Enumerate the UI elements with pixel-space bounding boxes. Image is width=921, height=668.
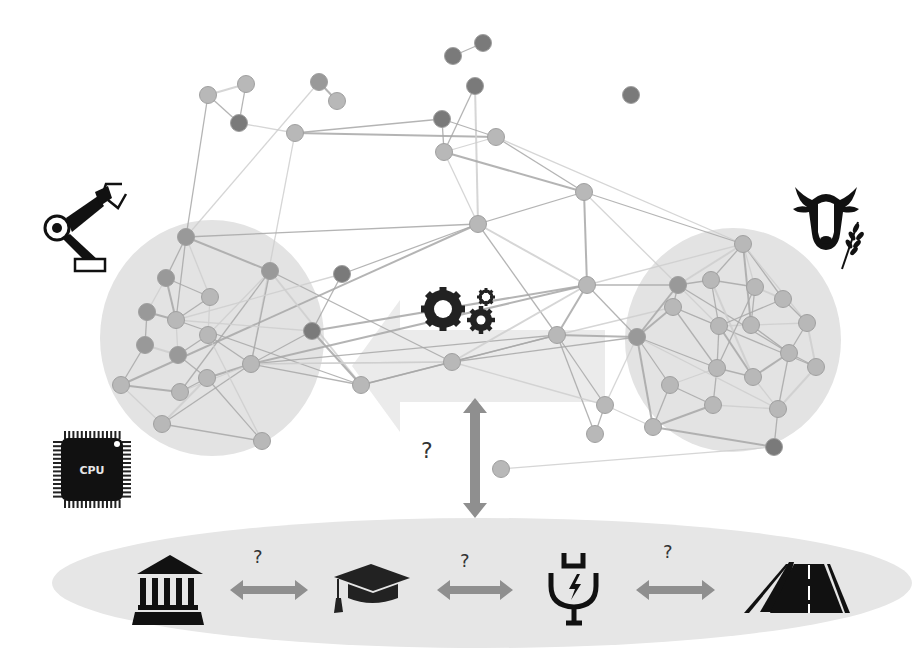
network-node bbox=[662, 377, 679, 394]
network-node bbox=[353, 377, 370, 394]
network-node bbox=[735, 236, 752, 253]
network-node bbox=[623, 87, 640, 104]
network-node bbox=[488, 129, 505, 146]
network-node bbox=[705, 397, 722, 414]
network-node bbox=[703, 272, 720, 289]
network-edge bbox=[444, 152, 478, 224]
network-node bbox=[766, 439, 783, 456]
network-node bbox=[808, 359, 825, 376]
network-node bbox=[243, 356, 260, 373]
network-node bbox=[645, 419, 662, 436]
network-node bbox=[254, 433, 271, 450]
network-node bbox=[770, 401, 787, 418]
network-node bbox=[304, 323, 321, 340]
network-node bbox=[199, 370, 216, 387]
network-edge bbox=[584, 192, 678, 285]
network-node bbox=[470, 216, 487, 233]
network-node bbox=[781, 345, 798, 362]
network-node bbox=[154, 416, 171, 433]
center-question-mark: ? bbox=[421, 440, 433, 462]
network-node bbox=[158, 270, 175, 287]
network-node bbox=[629, 329, 646, 346]
network-edge bbox=[478, 192, 584, 224]
cpu-chip-icon: CPU bbox=[53, 431, 131, 508]
network-node bbox=[238, 76, 255, 93]
network-node bbox=[549, 327, 566, 344]
network-node bbox=[168, 312, 185, 329]
network-node bbox=[597, 397, 614, 414]
network-edge bbox=[444, 152, 584, 192]
network-node bbox=[311, 74, 328, 91]
network-edge bbox=[584, 192, 587, 285]
network-node bbox=[475, 35, 492, 52]
network-node bbox=[172, 384, 189, 401]
network-edge bbox=[295, 119, 442, 133]
network-node bbox=[200, 327, 217, 344]
link-question-mark-1: ? bbox=[253, 548, 263, 566]
network-node bbox=[329, 93, 346, 110]
network-node bbox=[579, 277, 596, 294]
network-edge bbox=[342, 224, 478, 274]
network-node bbox=[287, 125, 304, 142]
network-node bbox=[139, 304, 156, 321]
network-node bbox=[231, 115, 248, 132]
network-node bbox=[576, 184, 593, 201]
network-node bbox=[178, 229, 195, 246]
network-node bbox=[799, 315, 816, 332]
network-edge bbox=[501, 447, 774, 469]
cpu-label: CPU bbox=[79, 464, 104, 477]
network-node bbox=[200, 87, 217, 104]
network-edge bbox=[475, 86, 478, 224]
vertical-double-arrow bbox=[463, 398, 487, 518]
network-node bbox=[493, 461, 510, 478]
network-node bbox=[137, 337, 154, 354]
network-node bbox=[434, 111, 451, 128]
network-node bbox=[113, 377, 130, 394]
network-node bbox=[587, 426, 604, 443]
network-node bbox=[670, 277, 687, 294]
network-node bbox=[743, 317, 760, 334]
robot-arm-icon bbox=[45, 184, 126, 271]
network-node bbox=[202, 289, 219, 306]
network-edge bbox=[478, 224, 587, 285]
network-node bbox=[262, 263, 279, 280]
gears-icon bbox=[421, 287, 495, 334]
network-node bbox=[170, 347, 187, 364]
network-node bbox=[665, 299, 682, 316]
network-edge bbox=[584, 192, 743, 244]
network-node bbox=[775, 291, 792, 308]
network-node bbox=[436, 144, 453, 161]
network-edge bbox=[496, 137, 584, 192]
network-node bbox=[745, 369, 762, 386]
link-question-mark-2: ? bbox=[460, 552, 470, 570]
network-node bbox=[747, 279, 764, 296]
link-question-mark-3: ? bbox=[663, 543, 673, 561]
network-node bbox=[709, 360, 726, 377]
network-node bbox=[711, 318, 728, 335]
network-node bbox=[334, 266, 351, 283]
right-cluster bbox=[625, 228, 841, 452]
network-node bbox=[467, 78, 484, 95]
network-node bbox=[445, 48, 462, 65]
network-edge bbox=[295, 133, 496, 137]
network-node bbox=[444, 354, 461, 371]
